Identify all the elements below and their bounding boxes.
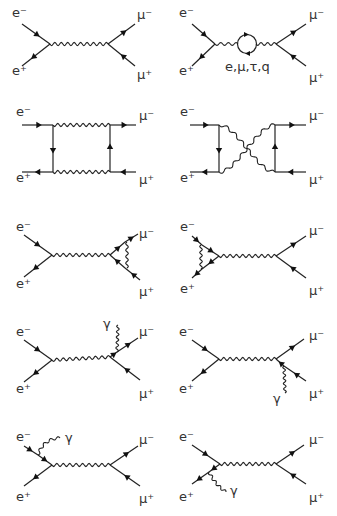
label-mu-plus: μ⁺	[309, 283, 324, 298]
photon-line	[219, 358, 276, 361]
label-e-plus: e⁺	[16, 489, 31, 504]
arrow-icon	[289, 345, 295, 351]
arrow-icon	[33, 264, 39, 270]
fermion-line	[276, 339, 304, 359]
arrow-icon	[124, 475, 130, 481]
photon-line	[116, 325, 119, 352]
diagram-8-fsr-mu-plus: γe⁻e⁺μ⁻μ⁺	[179, 324, 324, 406]
arrow-icon	[290, 242, 296, 248]
label-e-plus: e⁺	[16, 170, 31, 185]
label-mu-minus: μ⁻	[309, 432, 324, 447]
photon-line	[38, 437, 60, 455]
label-gamma: γ	[230, 483, 238, 498]
arrow-icon	[201, 345, 207, 351]
arrow-icon	[245, 51, 250, 56]
fermion-line	[192, 359, 219, 381]
photon-line	[52, 356, 110, 362]
diagram-4-box-crossed: e⁻e⁺μ⁻μ⁺	[180, 104, 324, 187]
label-gamma: γ	[65, 430, 73, 445]
arrow-icon	[290, 266, 296, 272]
arrow-icon	[33, 369, 39, 375]
photon-line	[52, 464, 110, 467]
diagram-7-fsr-mu-minus: γe⁻e⁺μ⁻μ⁺	[16, 316, 154, 401]
arrow-icon	[288, 169, 294, 175]
diagram-2-vacuum-polarization: e,μ,τ,qe⁻e⁺μ⁻μ⁺	[179, 5, 324, 85]
fermion-line	[108, 24, 135, 44]
label-e-minus: e⁻	[179, 324, 194, 339]
label-mu-minus: μ⁻	[139, 226, 154, 241]
label-mu-plus: μ⁺	[137, 67, 152, 82]
label-e-minus: e⁻	[16, 324, 31, 339]
arrow-icon	[41, 456, 47, 462]
diagram-5-vertex-correction-final: e⁻e⁺μ⁻μ⁺	[16, 219, 154, 299]
label-mu-plus: μ⁺	[309, 386, 324, 401]
label-mu-plus: μ⁺	[139, 172, 154, 187]
photon-line	[220, 463, 276, 466]
fermion-line	[110, 446, 138, 465]
label-e-minus: e⁻	[16, 219, 31, 234]
diagram-9-isr-e-minus: γe⁻e⁺μ⁻μ⁺	[16, 429, 154, 506]
photon-line	[219, 255, 276, 258]
fermion-line	[24, 360, 52, 382]
label-e-minus: e⁻	[16, 429, 31, 444]
label-e-plus: e⁺	[16, 381, 31, 396]
fermion-line	[276, 236, 306, 256]
arrow-icon	[35, 169, 41, 175]
fermion-line	[276, 24, 306, 44]
photon-line	[219, 124, 275, 173]
label-e-plus: e⁺	[179, 381, 194, 396]
arrow-icon	[290, 30, 296, 36]
fermion-line	[276, 445, 304, 464]
label-mu-minus: μ⁻	[309, 7, 324, 22]
arrow-icon	[31, 53, 37, 59]
arrow-icon	[202, 169, 208, 175]
arrow-icon	[33, 473, 39, 479]
fermion-line	[192, 44, 215, 66]
label-e-minus: e⁻	[179, 5, 194, 20]
arrow-icon	[203, 122, 209, 128]
label-e-plus: e⁺	[179, 63, 194, 78]
label-e-minus: e⁻	[180, 104, 195, 119]
label-mu-minus: μ⁻	[139, 108, 154, 123]
label-e-minus: e⁻	[179, 429, 194, 444]
arrow-icon	[34, 346, 40, 352]
arrow-icon	[124, 368, 130, 374]
arrow-icon	[197, 475, 203, 481]
diagram-6-vertex-correction-initial: e⁻e⁺μ⁻μ⁺	[180, 219, 324, 298]
photon-line	[200, 245, 203, 269]
label-e-minus: e⁻	[12, 5, 27, 20]
arrow-icon	[107, 143, 113, 149]
arrow-icon	[289, 451, 295, 457]
label-mu-plus: μ⁺	[309, 490, 324, 505]
label-e-plus: e⁺	[179, 489, 194, 504]
fermion-line	[24, 255, 52, 277]
label-mu-plus: μ⁺	[139, 386, 154, 401]
arrow-icon	[244, 32, 249, 37]
fermion-loop	[238, 35, 257, 54]
photon-line	[53, 171, 110, 174]
label-e-plus: e⁺	[180, 170, 195, 185]
photon-line	[50, 42, 108, 45]
arrow-icon	[124, 343, 130, 349]
arrow-icon	[290, 473, 296, 479]
label-mu-minus: μ⁻	[309, 108, 324, 123]
label-mu-minus: μ⁻	[139, 324, 154, 339]
label-mu-plus: μ⁺	[309, 172, 324, 187]
diagram-3-box-direct: e⁻e⁺μ⁻μ⁺	[16, 104, 154, 187]
arrow-icon	[120, 30, 126, 36]
arrow-icon	[122, 122, 128, 128]
label-mu-plus: μ⁺	[309, 70, 324, 85]
photon-line	[209, 472, 227, 492]
arrow-icon	[33, 31, 39, 37]
label-mu-plus: μ⁺	[139, 491, 154, 506]
label-gamma: γ	[273, 391, 281, 406]
label-gamma: γ	[103, 316, 111, 331]
label-mu-minus: μ⁻	[137, 7, 152, 22]
photon-line	[215, 43, 238, 46]
arrow-icon	[290, 54, 296, 60]
label-loop-particles: e,μ,τ,q	[225, 59, 270, 74]
photon-line	[283, 366, 287, 393]
arrow-icon	[211, 465, 217, 471]
arrow-icon	[202, 450, 208, 456]
arrow-icon	[123, 452, 129, 458]
